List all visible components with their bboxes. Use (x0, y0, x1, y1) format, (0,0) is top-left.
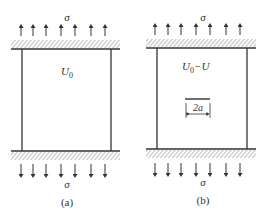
bottom-arrows (21, 164, 105, 176)
top-stress-label: σ (64, 11, 70, 23)
top-plate-hatch (146, 39, 256, 47)
energy-label: U0−U (182, 60, 210, 75)
bottom-plate-hatch (11, 152, 120, 160)
top-stress-label: σ (200, 11, 206, 23)
top-arrows (21, 26, 105, 36)
caption-a: (a) (61, 196, 74, 209)
bottom-plate-hatch (146, 150, 256, 158)
caption-b: (b) (197, 194, 210, 207)
crack-length-label: 2a (193, 102, 203, 113)
panel-a: σ U0 σ (a) (11, 11, 120, 209)
energy-label: U0 (61, 65, 73, 80)
top-plate-hatch (11, 40, 120, 48)
bottom-stress-label: σ (200, 176, 206, 188)
top-arrows (155, 25, 240, 35)
bottom-arrows (155, 163, 240, 175)
panel-b: σ U0−U 2a σ (b) (146, 11, 256, 207)
bottom-stress-label: σ (64, 178, 70, 190)
diagram-canvas: σ U0 σ (a) σ (0, 0, 265, 220)
